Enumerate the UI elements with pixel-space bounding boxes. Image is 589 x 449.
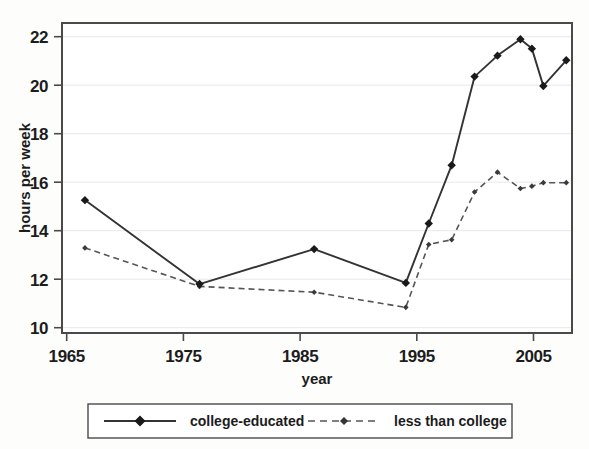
x-axis-title: year: [302, 370, 333, 387]
x-tick-label-1975: 1975: [165, 347, 201, 366]
x-tick-label-1985: 1985: [282, 347, 318, 366]
x-tick-label-2005: 2005: [515, 347, 551, 366]
y-tick-label-12: 12: [30, 271, 48, 290]
legend-label-college-educated: college-educated: [190, 413, 304, 429]
x-tick-label-1995: 1995: [399, 347, 435, 366]
x-tick-label-1965: 1965: [49, 347, 85, 366]
y-axis-title: hours per week: [16, 122, 33, 233]
chart-figure: 22 20 18 16 14 12 10 hours per week 1965…: [0, 0, 589, 449]
y-tick-label-20: 20: [30, 77, 48, 96]
y-tick-label-10: 10: [30, 319, 48, 338]
line-chart-canvas: 22 20 18 16 14 12 10 hours per week 1965…: [0, 0, 589, 449]
y-axis-ticks: [54, 37, 62, 328]
x-axis-ticks: [67, 333, 534, 341]
plot-area-background: [62, 23, 572, 333]
y-tick-label-22: 22: [30, 28, 48, 47]
chart-legend: college-educated less than college: [88, 404, 512, 438]
legend-label-less-than-college: less than college: [394, 413, 507, 429]
